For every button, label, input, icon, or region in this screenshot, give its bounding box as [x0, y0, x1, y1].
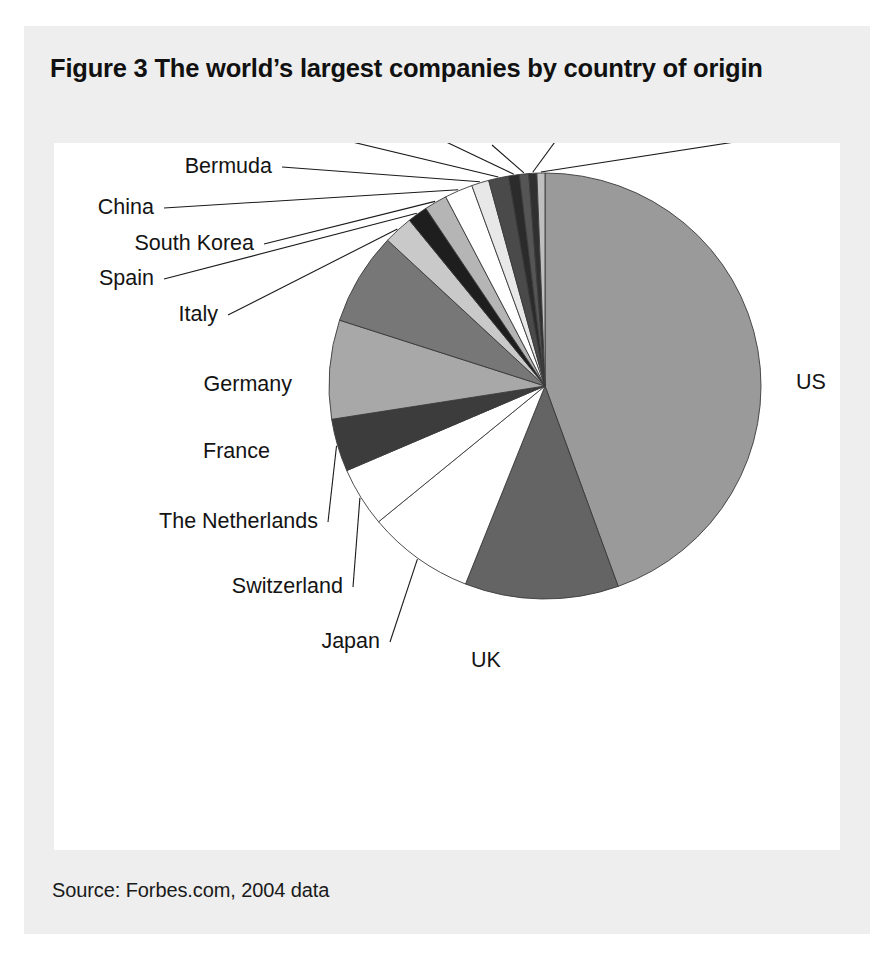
pie-slice-label: China	[98, 195, 154, 219]
source-note: Source: Forbes.com, 2004 data	[52, 879, 329, 902]
leader-line	[277, 143, 498, 177]
leader-line	[379, 143, 514, 174]
leader-line	[492, 145, 524, 173]
figure-card: Figure 3 The world’s largest companies b…	[24, 26, 870, 934]
pie-slice-label: Switzerland	[232, 574, 343, 598]
leader-line	[390, 559, 417, 642]
pie-slice-label: Germany	[204, 372, 293, 396]
leader-line	[541, 143, 754, 172]
pie-slice-label: Spain	[99, 266, 154, 290]
pie-slices	[329, 173, 761, 599]
leader-line	[282, 167, 480, 182]
pie-slice-label: US	[796, 370, 826, 394]
pie-slice-label: France	[203, 439, 270, 463]
pie-slice-label: Japan	[321, 629, 380, 653]
leader-line	[328, 446, 337, 522]
leader-line	[533, 143, 579, 172]
pie-slice-label: Italy	[179, 302, 219, 326]
page-title: Figure 3 The world’s largest companies b…	[50, 52, 830, 85]
leader-line	[164, 190, 458, 208]
pie-slice-label: South Korea	[134, 231, 254, 255]
pie-chart: USUKJapanSwitzerlandThe NetherlandsFranc…	[54, 143, 840, 850]
pie-slice-label: The Netherlands	[159, 509, 318, 533]
pie-slice-label: UK	[471, 648, 502, 672]
leader-line	[353, 498, 360, 587]
chart-plot-area: USUKJapanSwitzerlandThe NetherlandsFranc…	[54, 143, 840, 850]
pie-slice-label: Bermuda	[185, 154, 272, 178]
